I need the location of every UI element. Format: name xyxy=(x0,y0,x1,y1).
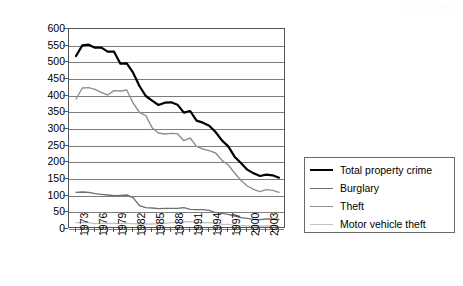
legend-swatch-icon xyxy=(310,206,333,207)
y-axis-tick-label: 400 xyxy=(35,90,65,101)
x-axis-tick-mark xyxy=(189,228,190,232)
y-axis-tick-label: 250 xyxy=(35,140,65,151)
legend-swatch-icon xyxy=(310,188,333,189)
x-axis-tick-label: 2003 xyxy=(269,213,280,236)
y-axis-tick-label: 600 xyxy=(35,23,65,34)
legend-item[interactable]: Burglary xyxy=(305,179,454,197)
legend-label: Burglary xyxy=(340,183,379,194)
x-axis-tick-mark xyxy=(75,228,76,232)
x-axis-tick-label: 1991 xyxy=(193,213,204,236)
y-axis-tick-label: 550 xyxy=(35,40,65,51)
x-axis-tick-label: 2000 xyxy=(250,213,261,236)
y-axis-tick-label: 500 xyxy=(35,56,65,67)
legend-label: Total property crime xyxy=(340,165,432,176)
series-line xyxy=(76,45,279,178)
x-axis-tick-mark xyxy=(170,228,171,232)
legend-item[interactable]: Total property crime xyxy=(305,161,454,179)
y-axis-tick-label: 200 xyxy=(35,156,65,167)
legend-item[interactable]: Motor vehicle theft xyxy=(305,215,454,233)
x-axis-tick-mark xyxy=(113,228,114,232)
y-axis-tick-label: 150 xyxy=(35,173,65,184)
x-axis-tick-mark xyxy=(208,228,209,232)
legend-swatch-icon xyxy=(310,224,333,225)
y-axis-tick-label: 450 xyxy=(35,73,65,84)
y-axis-tick-label: 100 xyxy=(35,190,65,201)
x-axis-tick-label: 1982 xyxy=(136,213,147,236)
plot-area xyxy=(68,28,285,228)
x-axis-tick-label: 1979 xyxy=(117,213,128,236)
legend-label: Theft xyxy=(340,201,364,212)
scan-bleed-artifact: Section 2.5 xyxy=(399,2,455,12)
x-axis-tick-mark xyxy=(246,228,247,232)
y-axis-tick-label: 300 xyxy=(35,123,65,134)
y-axis-tick-mark xyxy=(63,228,68,229)
x-axis-tick-mark xyxy=(227,228,228,232)
x-axis-tick-mark xyxy=(151,228,152,232)
x-axis-tick-label: 1985 xyxy=(155,213,166,236)
legend-item[interactable]: Theft xyxy=(305,197,454,215)
series-line xyxy=(76,88,279,193)
legend-swatch-icon xyxy=(310,169,333,171)
legend-label: Motor vehicle theft xyxy=(340,219,426,230)
chart-figure: Section 2.5 Victimization Rate per 1,000… xyxy=(0,0,463,286)
x-axis-tick-label: 1994 xyxy=(212,213,223,236)
x-axis-tick-label: 1976 xyxy=(98,213,109,236)
x-axis-tick-mark xyxy=(94,228,95,232)
chart-legend: Total property crimeBurglaryTheftMotor v… xyxy=(304,157,455,233)
series-layer xyxy=(69,29,286,229)
y-axis-tick-label: 50 xyxy=(35,206,65,217)
x-axis-tick-label: 1988 xyxy=(174,213,185,236)
x-axis-tick-mark xyxy=(265,228,266,232)
y-axis-tick-label: 0 xyxy=(35,223,65,234)
x-axis-tick-mark xyxy=(132,228,133,232)
x-axis-tick-label: 1997 xyxy=(231,213,242,236)
x-axis-tick-label: 1973 xyxy=(79,213,90,236)
y-axis-tick-label: 350 xyxy=(35,106,65,117)
